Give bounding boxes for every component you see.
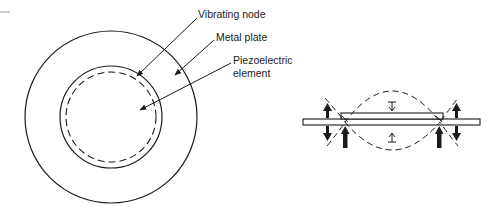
piezo-element-arrow [140,63,231,110]
right-support-arrow [435,126,444,148]
label-metal-plate: Metal plate [216,31,268,43]
metal-plate-outline [25,31,197,203]
left-support-arrow [341,126,350,148]
metal-plate-bar [303,119,480,125]
label-element: element [233,67,270,79]
piezo-layer [341,113,443,119]
label-piezoelectric: Piezoelectric [233,54,293,66]
metal-plate-arrow [175,40,214,75]
vibrating-node-circle [66,72,156,162]
top-view: Vibrating node Metal plate Piezoelectric… [25,8,293,203]
diagram-canvas: Vibrating node Metal plate Piezoelectric… [0,0,504,216]
side-view [303,91,480,150]
label-vibrating-node: Vibrating node [198,8,266,20]
vibrating-node-arrow [137,18,197,76]
piezo-element-outline [60,66,162,168]
